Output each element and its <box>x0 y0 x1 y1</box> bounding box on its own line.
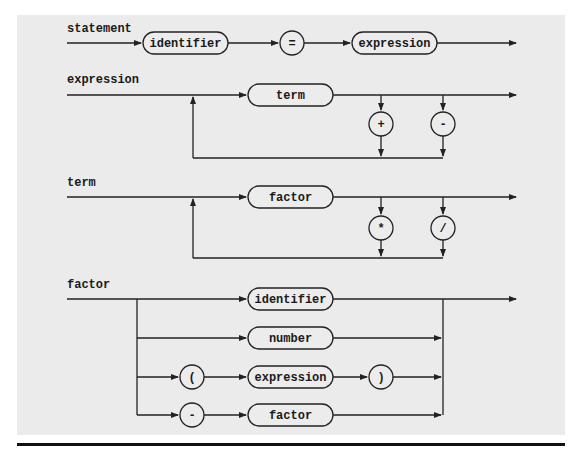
rule-label-factor: factor <box>67 278 110 292</box>
node-factor-expression: expression <box>248 366 333 388</box>
svg-text:*: * <box>377 222 384 236</box>
rule-label-expression: expression <box>67 73 139 87</box>
node-factor-factor: factor <box>248 404 333 426</box>
node-minus: - <box>431 112 455 136</box>
svg-text:-: - <box>188 409 195 423</box>
svg-text:number: number <box>269 332 312 346</box>
svg-text:=: = <box>288 37 295 51</box>
svg-text:factor: factor <box>269 191 312 205</box>
node-unary-minus: - <box>180 403 204 427</box>
node-divide: / <box>431 216 455 240</box>
node-times: * <box>369 216 393 240</box>
node-identifier: identifier <box>143 32 228 54</box>
svg-text:expression: expression <box>254 371 326 385</box>
svg-text:identifier: identifier <box>254 293 326 307</box>
node-term: term <box>248 84 333 106</box>
node-plus: + <box>369 112 393 136</box>
node-equals: = <box>280 31 304 55</box>
node-lparen: ( <box>180 365 204 389</box>
rule-label-term: term <box>67 176 96 190</box>
svg-text:expression: expression <box>358 37 430 51</box>
node-factor-number: number <box>248 327 333 349</box>
bottom-rule <box>17 443 565 446</box>
svg-text:term: term <box>276 89 305 103</box>
node-rparen: ) <box>369 365 393 389</box>
svg-text:(: ( <box>188 371 195 385</box>
svg-text:): ) <box>377 371 384 385</box>
node-expression: expression <box>352 32 437 54</box>
svg-text:-: - <box>439 118 446 132</box>
svg-text:/: / <box>439 222 446 236</box>
syntax-diagram: statement identifier = expression expres… <box>0 0 585 456</box>
svg-text:identifier: identifier <box>149 37 221 51</box>
rule-label-statement: statement <box>67 22 132 36</box>
node-factor: factor <box>248 186 333 208</box>
svg-text:factor: factor <box>269 409 312 423</box>
node-factor-identifier: identifier <box>248 288 333 310</box>
svg-text:+: + <box>377 118 384 132</box>
